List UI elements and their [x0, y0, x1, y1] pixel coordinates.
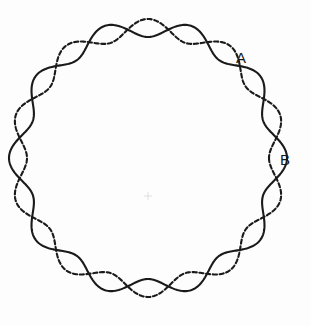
figure-container: A B — [0, 0, 311, 325]
crossing-point-label-a: A — [236, 50, 246, 65]
center-mark — [144, 192, 152, 200]
wavy-circle-diagram — [0, 0, 311, 325]
crossing-point-label-b: B — [280, 152, 290, 167]
